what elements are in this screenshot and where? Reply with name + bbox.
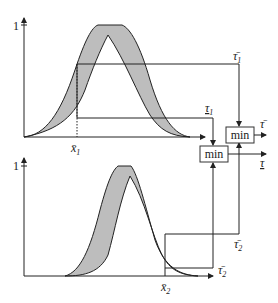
min-box-upper: min τ̄ xyxy=(226,117,267,143)
bottom-footprint-of-uncertainty xyxy=(65,166,198,276)
upper-min-output-label: τ̄ xyxy=(260,117,267,131)
bottom-x-label: x̄2 xyxy=(160,280,170,296)
lower-min-output-label: τ xyxy=(260,156,265,170)
min-box-lower: min τ xyxy=(200,146,266,170)
interval-type2-fuzzy-diagram: 1 x̄1 τ̄1 τ1 1 x̄2 τ̄2 τ̄2 min τ̄ min xyxy=(0,0,278,303)
bottom-lower-firing-line xyxy=(165,163,213,268)
top-lower-firing-line xyxy=(77,118,213,145)
top-lower-output-label: τ1 xyxy=(205,101,213,117)
bottom-y-tick-label: 1 xyxy=(13,159,19,173)
top-membership-plot: 1 x̄1 τ̄1 τ1 xyxy=(13,18,241,157)
bottom-membership-plot: 1 x̄2 τ̄2 τ̄2 xyxy=(13,143,242,296)
svg-text:min: min xyxy=(205,147,224,161)
bottom-upper-output-label: τ̄2 xyxy=(234,237,242,253)
svg-text:min: min xyxy=(231,128,250,142)
bottom-lower-output-label: τ̄2 xyxy=(218,263,226,279)
top-upper-output-label: τ̄1 xyxy=(233,49,241,65)
top-footprint-of-uncertainty xyxy=(24,25,190,137)
top-y-tick-label: 1 xyxy=(13,19,19,33)
top-x-label: x̄1 xyxy=(70,141,80,157)
